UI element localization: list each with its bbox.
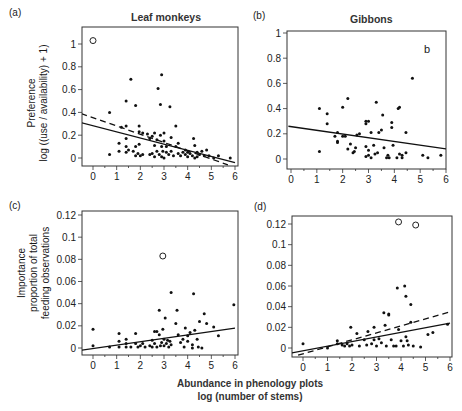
data-point bbox=[404, 295, 407, 298]
data-point bbox=[163, 157, 166, 160]
data-point bbox=[358, 344, 361, 347]
data-point bbox=[326, 122, 329, 125]
x-tick-label: 4 bbox=[392, 174, 398, 185]
x-tick-label: 2 bbox=[349, 362, 355, 373]
x-tick-label: 0 bbox=[90, 171, 96, 182]
data-point bbox=[355, 134, 358, 137]
data-point bbox=[176, 309, 179, 312]
data-point bbox=[92, 344, 95, 347]
data-point bbox=[409, 303, 412, 306]
data-point bbox=[326, 347, 329, 350]
data-point bbox=[151, 135, 154, 138]
data-point bbox=[125, 338, 128, 341]
x-tick-label: 2 bbox=[340, 174, 346, 185]
data-point bbox=[196, 151, 199, 154]
x-tick-label: 6 bbox=[232, 360, 238, 371]
y-tick-label: 1 bbox=[70, 39, 76, 50]
data-point bbox=[160, 73, 163, 76]
solid-fit-line bbox=[81, 123, 235, 163]
x-tick-label: 3 bbox=[366, 174, 372, 185]
data-point bbox=[170, 343, 173, 346]
x-tick-label: 2 bbox=[138, 171, 144, 182]
data-point bbox=[341, 106, 344, 109]
data-point bbox=[380, 129, 383, 132]
data-point bbox=[153, 144, 156, 147]
data-point bbox=[419, 345, 422, 348]
data-point bbox=[404, 151, 407, 154]
data-point bbox=[351, 343, 354, 346]
data-point bbox=[392, 144, 395, 147]
y-tick-label: 0 bbox=[70, 343, 76, 354]
x-tick-label: 3 bbox=[374, 362, 380, 373]
x-tick-label: 2 bbox=[138, 360, 144, 371]
x-tick-label: 1 bbox=[114, 171, 120, 182]
data-point bbox=[160, 341, 163, 344]
data-point bbox=[387, 313, 390, 316]
data-point bbox=[302, 342, 305, 345]
data-point bbox=[370, 156, 373, 159]
data-point bbox=[355, 332, 358, 335]
outlier-point bbox=[396, 219, 402, 225]
data-point bbox=[358, 132, 361, 135]
data-point bbox=[157, 87, 160, 90]
data-point bbox=[108, 153, 111, 156]
data-point bbox=[344, 135, 347, 138]
x-tick-label: 1 bbox=[114, 360, 120, 371]
outlier-point bbox=[413, 222, 419, 228]
data-point bbox=[148, 137, 151, 140]
y-tick-label: 0.08 bbox=[57, 254, 77, 265]
data-point bbox=[172, 154, 175, 157]
data-point bbox=[367, 154, 370, 157]
x-tick-label: 5 bbox=[417, 174, 423, 185]
data-point bbox=[92, 328, 95, 331]
outlier-point bbox=[90, 38, 96, 44]
data-point bbox=[341, 135, 344, 138]
data-point bbox=[134, 145, 137, 148]
data-point bbox=[409, 321, 412, 324]
data-point bbox=[403, 285, 406, 288]
data-point bbox=[404, 335, 407, 338]
data-point bbox=[129, 345, 132, 348]
data-point bbox=[108, 111, 111, 114]
y-tick-label: 0.06 bbox=[267, 281, 287, 292]
data-point bbox=[165, 145, 168, 148]
data-point bbox=[349, 142, 352, 145]
data-point bbox=[336, 339, 339, 342]
y-tick-label: 0 bbox=[70, 153, 76, 164]
data-point bbox=[139, 344, 142, 347]
data-point bbox=[439, 154, 442, 157]
data-point bbox=[168, 105, 171, 108]
data-point bbox=[365, 343, 368, 346]
data-point bbox=[125, 342, 128, 345]
data-point bbox=[383, 146, 386, 149]
y-tick-label: 0.2 bbox=[267, 128, 281, 139]
data-point bbox=[163, 344, 166, 347]
data-point bbox=[375, 344, 378, 347]
data-point bbox=[138, 125, 141, 128]
data-point bbox=[212, 325, 215, 328]
data-point bbox=[151, 152, 154, 155]
data-point bbox=[346, 147, 349, 150]
data-point bbox=[159, 103, 162, 106]
x-tick-label: 4 bbox=[185, 171, 191, 182]
data-point bbox=[400, 339, 403, 342]
data-point bbox=[396, 287, 399, 290]
data-point bbox=[411, 77, 414, 80]
plot-canvas: 012345600.20.40.60.81012345600.20.40.60.… bbox=[0, 0, 462, 411]
x-tick-label: 4 bbox=[185, 360, 191, 371]
y-tick-label: 0 bbox=[280, 343, 286, 354]
data-point bbox=[141, 131, 144, 134]
data-point bbox=[380, 341, 383, 344]
data-point bbox=[381, 113, 384, 116]
data-point bbox=[404, 131, 407, 134]
data-point bbox=[366, 330, 369, 333]
data-point bbox=[402, 344, 405, 347]
data-point bbox=[373, 338, 376, 341]
data-point bbox=[318, 107, 321, 110]
data-point bbox=[134, 104, 137, 107]
data-point bbox=[382, 311, 385, 314]
data-point bbox=[384, 324, 387, 327]
data-point bbox=[159, 134, 162, 137]
data-point bbox=[181, 338, 184, 341]
data-point bbox=[144, 345, 147, 348]
